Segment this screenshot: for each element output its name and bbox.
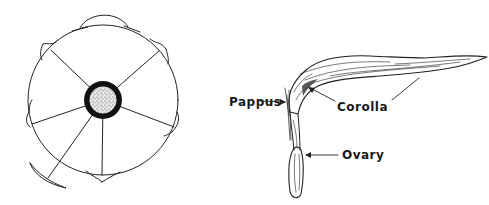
ovary-body bbox=[289, 147, 303, 198]
corolla-leader-right bbox=[392, 78, 419, 100]
floral-diagram bbox=[26, 15, 178, 188]
label-ovary: Ovary bbox=[342, 148, 384, 162]
pappus-bristles bbox=[285, 88, 291, 140]
labels: Pappus Corolla Ovary bbox=[229, 78, 419, 162]
ray-floret bbox=[285, 56, 487, 198]
stippled-center bbox=[90, 87, 117, 114]
top-lobe bbox=[80, 15, 128, 28]
pappus-arrowhead bbox=[280, 99, 286, 105]
label-corolla: Corolla bbox=[337, 100, 388, 114]
floret-figure: Pappus Corolla Ovary bbox=[0, 0, 489, 205]
crescent-bract bbox=[30, 163, 66, 188]
ovary-arrowhead bbox=[305, 152, 311, 158]
label-pappus: Pappus bbox=[229, 95, 281, 109]
